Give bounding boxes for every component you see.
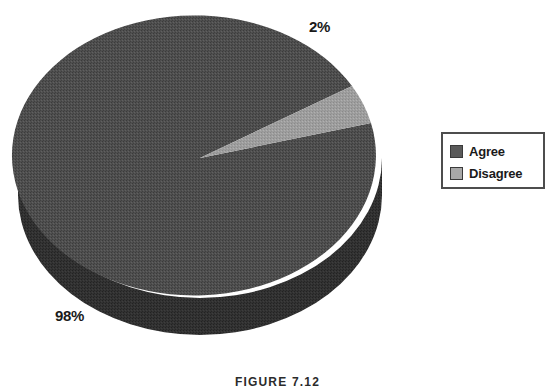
legend-label-disagree: Disagree (469, 167, 522, 180)
legend-item-disagree[interactable]: Disagree (450, 162, 543, 184)
pie-label-agree-percent: 98% (55, 307, 84, 324)
chart-legend: Agree Disagree (441, 132, 545, 189)
legend-swatch-agree-icon (450, 145, 463, 158)
pie-chart: 2% 98% (0, 0, 420, 360)
legend-label-agree: Agree (469, 145, 505, 158)
figure-caption: FIGURE 7.12 (0, 375, 555, 387)
pie-label-disagree-percent: 2% (309, 18, 330, 35)
legend-item-agree[interactable]: Agree (450, 140, 543, 162)
pie-slice-top-agree (12, 15, 376, 295)
pie-chart-svg (0, 0, 420, 360)
legend-swatch-disagree-icon (450, 167, 463, 180)
figure-page: 2% 98% Agree Disagree FIGURE 7.12 (0, 0, 555, 387)
